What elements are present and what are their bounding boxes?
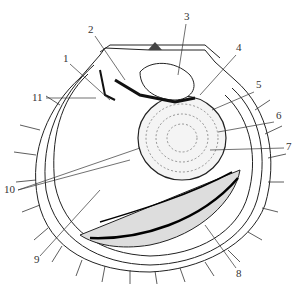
label-11: 11 [32, 91, 43, 103]
label-6: 6 [276, 109, 282, 121]
label-8: 8 [236, 267, 242, 279]
label-3: 3 [184, 10, 190, 22]
label-10: 10 [4, 183, 16, 195]
label-9: 9 [34, 253, 40, 265]
digestive-gland [138, 96, 226, 180]
label-2: 2 [88, 23, 94, 35]
dorsal-organs [100, 42, 195, 102]
label-5: 5 [256, 78, 262, 90]
gill-crescent [80, 170, 240, 247]
label-1: 1 [63, 52, 69, 64]
label-7: 7 [286, 140, 292, 152]
scallop-anatomy-diagram: 1 2 3 4 5 6 7 8 9 10 11 [0, 0, 299, 284]
label-4: 4 [236, 41, 242, 53]
